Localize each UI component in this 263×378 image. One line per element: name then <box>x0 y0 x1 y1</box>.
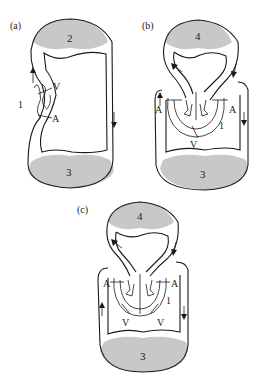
label-vessel-1: 1 <box>18 99 23 110</box>
arrow-left-icon <box>171 63 182 72</box>
label-atrium-left: A <box>103 278 111 289</box>
label-bed-top: 2 <box>67 32 73 44</box>
label-bed-top: 4 <box>137 210 143 222</box>
label-vessel-1: 1 <box>219 120 224 131</box>
label-ventricle-left: V <box>122 317 130 328</box>
heart-c <box>110 274 170 316</box>
label-atrium-right: A <box>171 278 179 289</box>
label-bed-top: 4 <box>195 30 201 42</box>
label-atrium-right: A <box>229 104 237 115</box>
label-bed-bottom: 3 <box>200 168 206 180</box>
arrow-down-icon <box>111 112 117 128</box>
panel-a: (a) V A 1 2 3 <box>10 19 117 188</box>
pulmonary-loop-inner <box>116 232 169 272</box>
label-atrium-left: A <box>155 104 163 115</box>
heart-b <box>166 92 228 138</box>
arrow-left-icon <box>111 239 122 248</box>
label-ventricle: V <box>53 81 61 92</box>
label-bed-bottom: 3 <box>66 166 72 178</box>
arrow-up-icon <box>99 302 105 316</box>
label-ventricle: V <box>190 139 198 150</box>
circulatory-diagram: (a) V A 1 2 3 (b) <box>0 0 263 378</box>
panel-c-label: (c) <box>77 204 88 216</box>
panel-c: (c) A A V V 1 4 3 <box>77 202 188 372</box>
panel-b-label: (b) <box>142 20 154 32</box>
label-vessel-1: 1 <box>166 295 171 306</box>
label-ventricle-right: V <box>157 317 165 328</box>
arrow-down-icon <box>181 306 187 320</box>
arrow-down-icon <box>241 112 247 126</box>
label-atrium: A <box>52 113 60 124</box>
label-bed-bottom: 3 <box>140 350 146 362</box>
arrow-down-icon <box>231 64 237 78</box>
panel-b: (b) A A V 1 4 3 <box>142 20 248 190</box>
panel-a-label: (a) <box>10 20 21 32</box>
